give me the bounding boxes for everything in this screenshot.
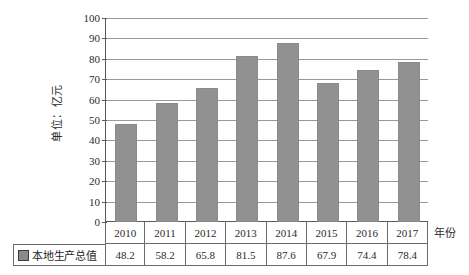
gridline xyxy=(106,79,428,80)
bar xyxy=(317,83,339,222)
bar xyxy=(115,124,137,222)
table-cell-year: 2015 xyxy=(307,222,347,243)
plot-area: 1009080706050403020100 xyxy=(105,18,428,222)
bar-chart-figure: 单位：亿元 1009080706050403020100 20102011201… xyxy=(0,0,469,275)
bar xyxy=(236,56,258,222)
table-cell-year: 2014 xyxy=(267,222,307,243)
gridline xyxy=(106,18,428,19)
bar xyxy=(277,43,299,222)
gridline xyxy=(106,59,428,60)
y-axis-tick-label: 20 xyxy=(89,176,100,187)
table-row-years: 20102011201220132014201520162017 xyxy=(105,222,428,244)
bar xyxy=(398,62,420,222)
y-axis-tick xyxy=(102,181,107,182)
bar xyxy=(357,70,379,222)
y-axis-tick-label: 40 xyxy=(89,135,100,146)
y-axis-tick-label: 80 xyxy=(89,53,100,64)
table-cell-value: 87.6 xyxy=(267,244,307,265)
y-axis-title: 单位：亿元 xyxy=(48,58,66,168)
y-axis-tick xyxy=(102,79,107,80)
table-cell-year: 2012 xyxy=(186,222,226,243)
gridline xyxy=(106,181,428,182)
gridline xyxy=(106,140,428,141)
table-cell-year: 2017 xyxy=(388,222,428,243)
square-marker-icon xyxy=(18,250,29,261)
table-cell-value: 67.9 xyxy=(307,244,347,265)
y-axis-tick-label: 100 xyxy=(84,13,101,24)
legend: 本地生产总值 xyxy=(13,244,105,266)
y-axis-tick xyxy=(102,202,107,203)
x-axis-title: 年份 xyxy=(434,224,456,240)
y-axis-tick xyxy=(102,161,107,162)
y-axis-tick-label: 30 xyxy=(89,155,100,166)
table-cell-year: 2010 xyxy=(105,222,145,243)
gridline xyxy=(106,120,428,121)
legend-label: 本地生产总值 xyxy=(32,247,97,263)
table-cell-value: 65.8 xyxy=(186,244,226,265)
y-axis-tick xyxy=(102,59,107,60)
table-cell-value: 58.2 xyxy=(145,244,185,265)
table-row-values: 48.258.265.881.587.667.974.478.4 xyxy=(105,244,428,266)
table-cell-year: 2013 xyxy=(226,222,266,243)
gridline xyxy=(106,161,428,162)
y-axis-tick xyxy=(102,140,107,141)
y-axis-tick xyxy=(102,38,107,39)
table-cell-value: 48.2 xyxy=(105,244,145,265)
table-cell-value: 78.4 xyxy=(388,244,428,265)
y-axis-tick-label: 90 xyxy=(89,33,100,44)
data-table: 20102011201220132014201520162017 48.258.… xyxy=(105,222,428,266)
table-cell-value: 74.4 xyxy=(347,244,387,265)
y-axis-tick xyxy=(102,100,107,101)
y-axis-tick-label: 0 xyxy=(95,217,101,228)
y-axis-tick xyxy=(102,18,107,19)
table-cell-year: 2016 xyxy=(347,222,387,243)
y-axis-tick-label: 70 xyxy=(89,74,100,85)
y-axis-tick-label: 10 xyxy=(89,196,100,207)
y-axis-tick xyxy=(102,120,107,121)
bar xyxy=(156,103,178,222)
table-cell-value: 81.5 xyxy=(226,244,266,265)
y-axis-tick-label: 50 xyxy=(89,115,100,126)
gridline xyxy=(106,100,428,101)
gridline xyxy=(106,38,428,39)
table-cell-year: 2011 xyxy=(145,222,185,243)
y-axis-tick-label: 60 xyxy=(89,94,100,105)
bar xyxy=(196,88,218,222)
gridline xyxy=(106,202,428,203)
